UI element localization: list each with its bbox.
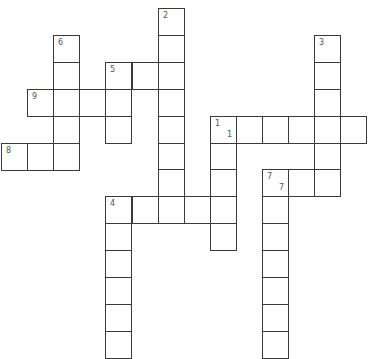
crossword-cell[interactable] (53, 62, 80, 90)
cell-input[interactable] (54, 144, 79, 170)
cell-input[interactable] (106, 197, 131, 223)
crossword-cell[interactable] (105, 304, 132, 332)
cell-input[interactable] (106, 63, 131, 89)
crossword-cell[interactable]: 4 (105, 196, 132, 224)
crossword-cell[interactable] (262, 116, 289, 144)
cell-input[interactable] (54, 117, 79, 143)
crossword-cell[interactable] (314, 62, 341, 90)
crossword-cell[interactable] (288, 169, 315, 197)
crossword-cell[interactable] (105, 277, 132, 305)
crossword-cell[interactable] (132, 196, 159, 224)
cell-input[interactable] (263, 224, 288, 250)
cell-input[interactable] (263, 197, 288, 223)
crossword-cell[interactable] (158, 143, 185, 171)
cell-input[interactable] (28, 90, 53, 116)
cell-input[interactable] (211, 197, 236, 223)
crossword-cell[interactable] (105, 116, 132, 144)
crossword-cell[interactable]: 8 (1, 143, 28, 171)
cell-input[interactable] (315, 36, 340, 62)
cell-input[interactable] (315, 144, 340, 170)
cell-input[interactable] (315, 117, 340, 143)
cell-input[interactable] (133, 63, 158, 89)
crossword-cell[interactable] (158, 169, 185, 197)
crossword-cell[interactable] (184, 196, 211, 224)
cell-input[interactable] (237, 117, 262, 143)
crossword-cell[interactable] (314, 116, 341, 144)
cell-input[interactable] (315, 63, 340, 89)
crossword-cell[interactable]: 3 (314, 35, 341, 63)
cell-input[interactable] (159, 9, 184, 35)
cell-input[interactable] (159, 63, 184, 89)
crossword-cell[interactable] (236, 116, 263, 144)
cell-input[interactable] (106, 332, 131, 358)
cell-input[interactable] (159, 90, 184, 116)
cell-input[interactable] (315, 90, 340, 116)
crossword-cell[interactable] (27, 143, 54, 171)
cell-input[interactable] (263, 170, 288, 196)
cell-input[interactable] (106, 251, 131, 277)
cell-input[interactable] (159, 144, 184, 170)
cell-input[interactable] (263, 117, 288, 143)
cell-input[interactable] (106, 278, 131, 304)
cell-input[interactable] (289, 170, 314, 196)
cell-input[interactable] (159, 36, 184, 62)
crossword-cell[interactable] (105, 331, 132, 359)
crossword-cell[interactable] (288, 116, 315, 144)
cell-input[interactable] (263, 278, 288, 304)
crossword-cell[interactable] (210, 169, 237, 197)
crossword-cell[interactable] (53, 89, 80, 117)
crossword-cell[interactable]: 6 (53, 35, 80, 63)
crossword-cell[interactable] (158, 89, 185, 117)
cell-input[interactable] (133, 197, 158, 223)
crossword-cell[interactable] (262, 223, 289, 251)
cell-input[interactable] (80, 90, 105, 116)
cell-input[interactable] (315, 170, 340, 196)
crossword-cell[interactable]: 77 (262, 169, 289, 197)
crossword-cell[interactable] (105, 89, 132, 117)
cell-input[interactable] (28, 144, 53, 170)
cell-input[interactable] (54, 90, 79, 116)
cell-input[interactable] (106, 117, 131, 143)
crossword-cell[interactable]: 11 (210, 116, 237, 144)
cell-input[interactable] (211, 170, 236, 196)
crossword-cell[interactable] (105, 250, 132, 278)
crossword-cell[interactable] (314, 143, 341, 171)
cell-input[interactable] (289, 117, 314, 143)
crossword-cell[interactable] (53, 116, 80, 144)
cell-input[interactable] (159, 117, 184, 143)
crossword-cell[interactable] (79, 89, 106, 117)
crossword-cell[interactable] (210, 143, 237, 171)
cell-input[interactable] (159, 197, 184, 223)
cell-input[interactable] (211, 224, 236, 250)
crossword-cell[interactable] (262, 250, 289, 278)
crossword-cell[interactable] (340, 116, 367, 144)
crossword-cell[interactable] (158, 35, 185, 63)
crossword-cell[interactable] (314, 89, 341, 117)
cell-input[interactable] (211, 117, 236, 143)
cell-input[interactable] (106, 90, 131, 116)
crossword-cell[interactable] (262, 196, 289, 224)
crossword-cell[interactable] (158, 116, 185, 144)
crossword-cell[interactable] (158, 62, 185, 90)
crossword-cell[interactable] (53, 143, 80, 171)
crossword-cell[interactable] (314, 169, 341, 197)
cell-input[interactable] (159, 170, 184, 196)
crossword-cell[interactable]: 9 (27, 89, 54, 117)
cell-input[interactable] (106, 305, 131, 331)
cell-input[interactable] (2, 144, 27, 170)
crossword-cell[interactable] (210, 223, 237, 251)
crossword-cell[interactable] (210, 196, 237, 224)
cell-input[interactable] (263, 251, 288, 277)
crossword-cell[interactable] (158, 196, 185, 224)
crossword-cell[interactable] (262, 304, 289, 332)
cell-input[interactable] (54, 63, 79, 89)
cell-input[interactable] (341, 117, 366, 143)
crossword-cell[interactable] (132, 62, 159, 90)
crossword-cell[interactable] (105, 223, 132, 251)
cell-input[interactable] (263, 305, 288, 331)
crossword-cell[interactable] (262, 331, 289, 359)
cell-input[interactable] (185, 197, 210, 223)
crossword-cell[interactable]: 5 (105, 62, 132, 90)
cell-input[interactable] (263, 332, 288, 358)
cell-input[interactable] (106, 224, 131, 250)
